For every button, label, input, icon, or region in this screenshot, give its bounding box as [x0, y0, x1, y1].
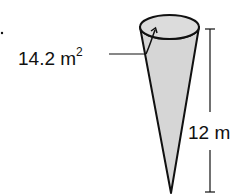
cone-base-ellipse: [140, 15, 199, 39]
area-label: 14.2 m2: [18, 45, 83, 69]
height-label: 12 m: [188, 122, 230, 143]
cone-diagram: 14.2 m2 12 m: [0, 0, 242, 196]
stray-dot: [1, 32, 3, 34]
cone-body: [140, 27, 199, 193]
